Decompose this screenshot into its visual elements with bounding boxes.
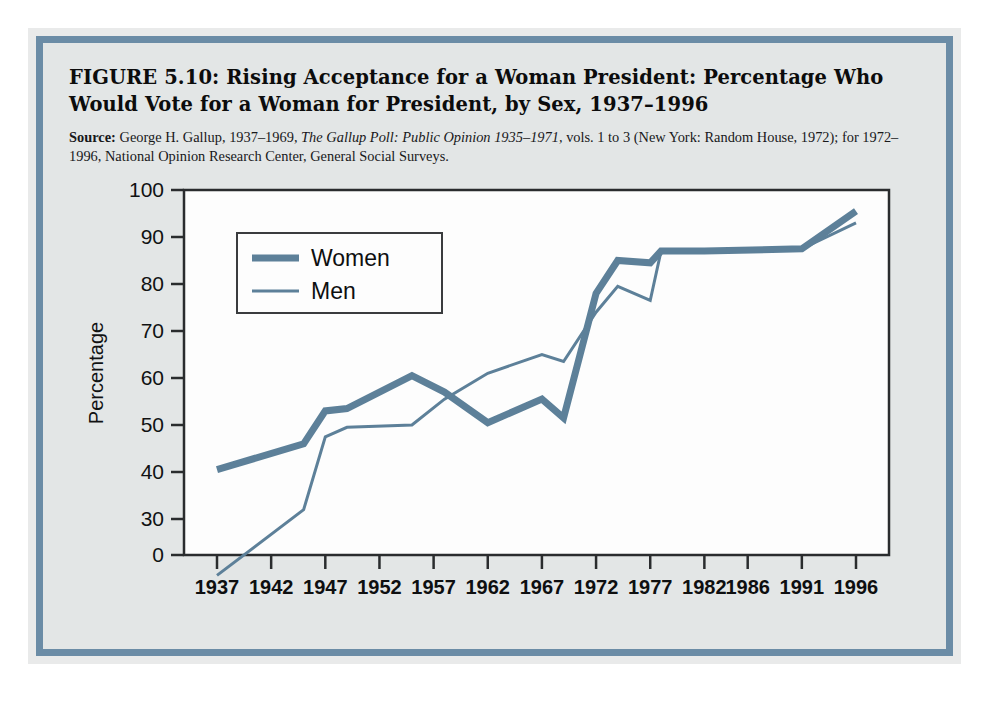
- y-axis-tick-label: 80: [141, 272, 164, 295]
- chart-legend: WomenMen: [237, 233, 442, 313]
- x-axis-tick-label: 1942: [249, 576, 293, 598]
- x-axis-tick-label: 1996: [834, 576, 879, 598]
- x-axis-tick-labels: 1937194219471952195719621967197219771982…: [195, 576, 879, 598]
- line-chart: 030405060708090100 Percentage 1937194219…: [69, 178, 922, 610]
- x-axis-tick-label: 1991: [780, 576, 825, 598]
- figure-source-note: Source: George H. Gallup, 1937–1969, The…: [69, 128, 914, 166]
- y-axis-tick-label: 40: [141, 460, 164, 483]
- figure-panel: FIGURE 5.10: Rising Acceptance for a Wom…: [43, 43, 946, 649]
- y-axis-tick-label: 30: [141, 507, 164, 530]
- source-label: Source:: [69, 129, 116, 145]
- x-axis-tick-label: 1962: [466, 576, 511, 598]
- x-axis-tick-label: 1972: [574, 576, 619, 598]
- x-axis-tick-label: 1947: [303, 576, 348, 598]
- y-axis-tick-label: 0: [152, 543, 164, 566]
- y-axis-tick-labels: 030405060708090100: [129, 178, 164, 566]
- x-axis-tick-label: 1957: [411, 576, 456, 598]
- y-axis-tick-label: 100: [129, 178, 164, 201]
- figure-title: FIGURE 5.10: Rising Acceptance for a Wom…: [69, 65, 904, 119]
- y-axis-tick-label: 50: [141, 413, 164, 436]
- y-axis-title: Percentage: [85, 322, 107, 424]
- legend-label-women: Women: [311, 245, 390, 271]
- x-axis-tick-label: 1967: [520, 576, 565, 598]
- y-axis-tick-label: 70: [141, 319, 164, 342]
- legend-label-men: Men: [311, 278, 356, 304]
- x-axis-tick-label: 1986: [725, 576, 770, 598]
- y-axis-tick-label: 60: [141, 366, 164, 389]
- figure-caption-block: FIGURE 5.10: Rising Acceptance for a Wom…: [69, 65, 920, 166]
- source-publication-title: The Gallup Poll: Public Opinion 1935–197…: [301, 129, 562, 145]
- source-text-part-one: George H. Gallup, 1937–1969,: [116, 129, 301, 145]
- x-axis-tick-label: 1952: [357, 576, 402, 598]
- y-axis-tick-label: 90: [141, 225, 164, 248]
- x-axis-ticks: [217, 555, 856, 569]
- chart-svg-canvas: 030405060708090100 Percentage 1937194219…: [69, 178, 922, 610]
- x-axis-tick-label: 1937: [195, 576, 240, 598]
- x-axis-tick-label: 1977: [628, 576, 673, 598]
- figure-blue-frame: FIGURE 5.10: Rising Acceptance for a Wom…: [36, 36, 953, 656]
- figure-outer-border: FIGURE 5.10: Rising Acceptance for a Wom…: [28, 28, 961, 664]
- y-axis-ticks: [171, 190, 184, 555]
- x-axis-tick-label: 1982: [682, 576, 727, 598]
